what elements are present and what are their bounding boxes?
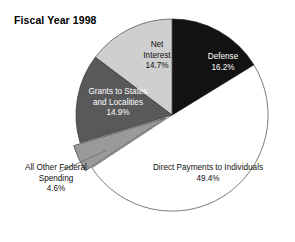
pie-chart-figure: Fiscal Year 1998 Defense 16.2% Net Inter… xyxy=(0,0,295,242)
pie-chart-svg xyxy=(0,0,295,242)
